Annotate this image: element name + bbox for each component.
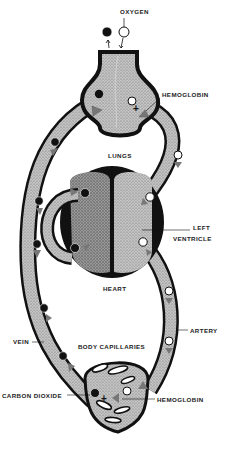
circulation-diagram: + + OXYGEN HEMOGLOBIN LUNGS LEFT VENTRIC… — [0, 0, 225, 451]
co2-molecule — [33, 240, 41, 248]
heart — [60, 166, 164, 278]
oxygen-molecule — [165, 337, 173, 345]
inhaled-oxygen — [119, 18, 129, 48]
label-vein: VEIN — [13, 338, 29, 345]
label-carbon-dioxide: CARBON DIOXIDE — [2, 392, 62, 399]
co2-molecule — [35, 197, 43, 205]
hemoglobin-icon — [46, 314, 52, 322]
co2-molecule — [71, 244, 80, 253]
co2-molecule — [59, 352, 67, 360]
lungs — [82, 52, 158, 136]
oxygen-molecule — [174, 151, 182, 159]
plus-sign: + — [101, 393, 107, 404]
label-left: LEFT — [193, 224, 210, 231]
label-lungs: LUNGS — [108, 152, 132, 159]
oxygen-molecule — [146, 193, 154, 201]
co2-molecule — [81, 189, 90, 198]
artery-vessel — [144, 245, 171, 390]
label-oxygen: OXYGEN — [120, 8, 149, 15]
label-artery: ARTERY — [190, 327, 218, 334]
co2-molecule — [91, 389, 100, 398]
label-heart: HEART — [103, 285, 126, 292]
co2-molecule — [51, 138, 59, 146]
oxygen-molecule — [165, 287, 173, 295]
co2-molecule — [95, 90, 103, 98]
exhaled-co2 — [102, 27, 112, 48]
plus-sign: + — [133, 103, 139, 114]
oxygen-molecule — [139, 238, 147, 246]
co2-molecule — [40, 304, 48, 312]
oxygen-molecule — [123, 387, 131, 395]
label-hemoglobin-bottom: HEMOGLOBIN — [157, 396, 204, 403]
label-hemoglobin-top: HEMOGLOBIN — [162, 91, 209, 98]
label-body-capillaries: BODY CAPILLARIES — [78, 343, 145, 350]
label-ventricle: VENTRICLE — [173, 235, 212, 242]
